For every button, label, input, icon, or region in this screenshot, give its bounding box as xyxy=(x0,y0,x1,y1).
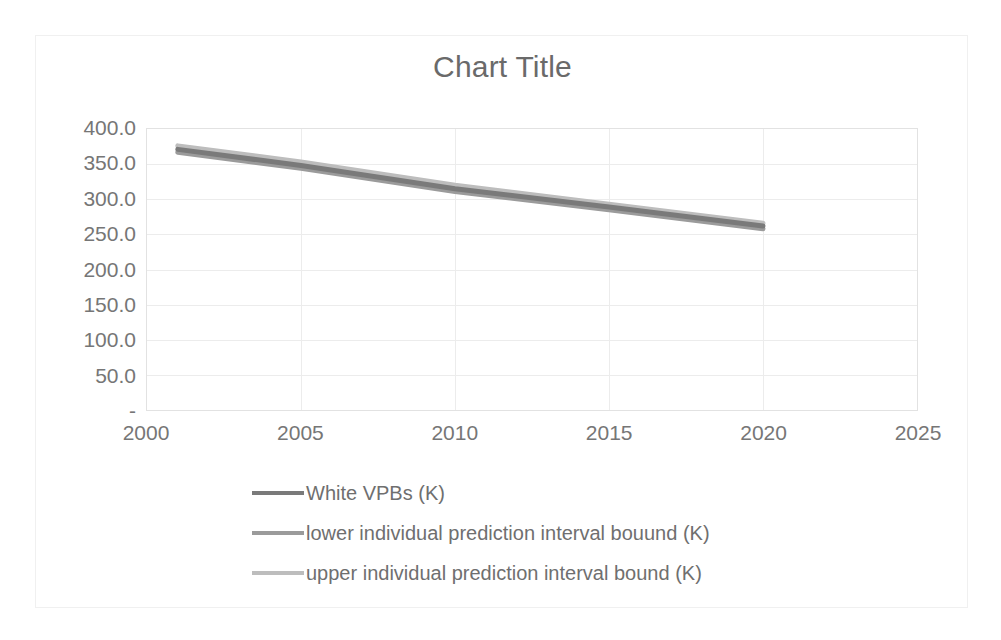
legend-swatch-icon xyxy=(252,531,304,535)
y-axis-tick: 350.0 xyxy=(36,151,136,175)
y-axis-tick: 150.0 xyxy=(36,293,136,317)
y-axis-tick: 100.0 xyxy=(36,328,136,352)
x-axis-tick-labels: 2000 2005 2010 2015 2020 2025 xyxy=(146,421,918,451)
y-axis-tick-labels: 400.0 350.0 300.0 250.0 200.0 150.0 100.… xyxy=(36,128,136,411)
legend-item[interactable]: White VPBs (K) xyxy=(36,473,969,513)
y-axis-tick: 250.0 xyxy=(36,222,136,246)
x-axis-tick: 2020 xyxy=(740,421,787,445)
plot-area xyxy=(146,128,918,411)
x-axis-tick: 2010 xyxy=(431,421,478,445)
chart-container: Chart Title 400.0 350.0 300.0 250.0 200.… xyxy=(35,35,968,608)
legend-item-label: upper individual prediction interval bou… xyxy=(306,562,702,585)
x-axis-tick: 2000 xyxy=(123,421,170,445)
chart-legend: White VPBs (K) lower individual predicti… xyxy=(36,473,969,593)
y-axis-tick: 300.0 xyxy=(36,187,136,211)
y-axis-tick: - xyxy=(36,399,136,423)
series-line-upper-bound xyxy=(178,146,763,223)
legend-item[interactable]: lower individual prediction interval bou… xyxy=(36,513,969,553)
series-plot xyxy=(147,129,917,410)
x-axis-tick: 2005 xyxy=(277,421,324,445)
y-axis-tick: 400.0 xyxy=(36,116,136,140)
x-axis-tick: 2015 xyxy=(586,421,633,445)
legend-item[interactable]: upper individual prediction interval bou… xyxy=(36,553,969,593)
y-axis-tick: 50.0 xyxy=(36,364,136,388)
legend-item-label: lower individual prediction interval bou… xyxy=(306,522,710,545)
legend-swatch-icon xyxy=(252,491,304,495)
y-axis-tick: 200.0 xyxy=(36,258,136,282)
legend-swatch-icon xyxy=(252,571,304,575)
legend-item-label: White VPBs (K) xyxy=(306,482,445,505)
x-axis-tick: 2025 xyxy=(895,421,942,445)
chart-title: Chart Title xyxy=(36,50,969,84)
